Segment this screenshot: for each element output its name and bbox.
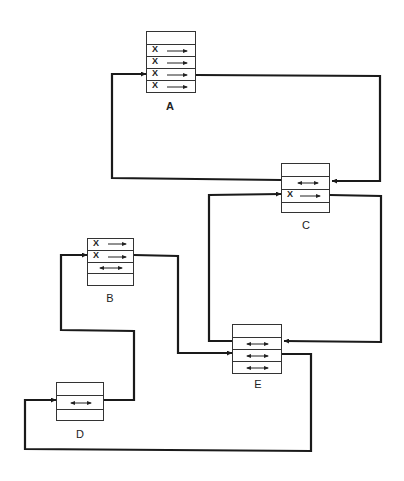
block-a-row-3: X [147,56,195,68]
block-b-row-1: X [88,239,133,250]
block-d-label: D [70,428,90,440]
block-a-row-4: X [147,68,195,80]
block-d-row-3 [57,409,103,421]
arrow-both-icon [57,396,103,410]
block-a-row-2: X [147,44,195,56]
line-b-to-e [134,255,232,353]
block-c-row-3: X [282,189,329,202]
arrow-both-icon [233,362,281,375]
block-b: X X [87,238,134,286]
line-e-to-c [209,194,281,341]
block-e-row-3 [233,349,281,361]
block-a-row-1 [147,32,195,44]
block-a-row-5: X [147,80,195,92]
block-d [56,382,104,421]
block-e [232,324,282,374]
line-c-to-a [112,74,281,180]
block-c-label: C [296,219,316,231]
block-b-label: B [100,292,120,304]
arrow-right-icon [88,239,134,250]
block-a: X X X X [146,31,196,93]
block-d-row-1 [57,383,103,395]
block-c-row-2 [282,176,329,189]
block-c-row-4 [282,202,329,214]
block-a-label: A [160,100,180,112]
block-b-row-3 [88,262,133,273]
block-e-row-4 [233,361,281,374]
block-e-row-1 [233,325,281,337]
block-b-row-4 [88,273,133,286]
line-c-to-e [284,195,381,342]
arrow-right-icon [147,81,195,93]
block-c: X [281,163,330,213]
block-d-row-2 [57,395,103,409]
block-c-row-1 [282,164,329,176]
block-e-row-2 [233,337,281,349]
block-b-row-2: X [88,250,133,262]
block-e-label: E [248,378,268,390]
